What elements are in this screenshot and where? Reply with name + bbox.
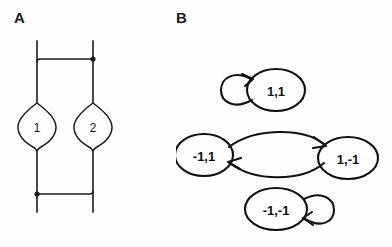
- edge-neg1-1-to-1-neg1-path: [229, 132, 324, 147]
- panel-b-state-diagram: 1,1 -1,1 1,-1 -1,-1: [176, 0, 392, 247]
- panel-a-circuit-diagram: 1 2: [0, 0, 176, 247]
- state-neg1-neg1-label: -1,-1: [263, 203, 290, 218]
- figure-root: A B 1 2 1,1: [0, 0, 392, 247]
- top-node-dot: [90, 56, 95, 61]
- state-1-1-label: 1,1: [267, 84, 285, 99]
- state-1-neg1-label: 1,-1: [337, 152, 359, 167]
- junction-2-label: 2: [90, 121, 97, 135]
- self-loop-neg1-neg1-path: [304, 195, 334, 223]
- edge-1-neg1-to-neg1-1-path: [230, 163, 324, 177]
- bottom-node-dot: [34, 191, 39, 196]
- junction-1-label: 1: [34, 121, 41, 135]
- state-neg1-1-label: -1,1: [193, 149, 215, 164]
- bottom-connector-wire: [37, 191, 93, 194]
- top-connector-wire: [37, 59, 93, 62]
